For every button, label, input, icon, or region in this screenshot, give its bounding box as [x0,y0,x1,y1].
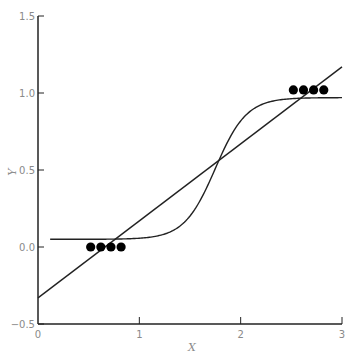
data-point [309,85,318,94]
y-tick-label: 1.5 [19,11,35,22]
x-tick-label: 0 [35,329,41,340]
data-point [116,242,125,251]
y-tick-label: 0.5 [19,165,35,176]
y-tick-label: −0.5 [11,319,35,330]
plot-area [38,67,342,298]
data-point [86,242,95,251]
x-tick-label: 1 [136,329,142,340]
data-point [106,242,115,251]
data-point [96,242,105,251]
data-point [319,85,328,94]
data-point [299,85,308,94]
x-tick-label: 3 [339,329,345,340]
linear-fit-line [38,67,342,298]
data-point [289,85,298,94]
logistic-fit-curve [50,98,342,240]
x-axis: 0123 [35,317,345,340]
y-tick-label: 1.0 [19,88,35,99]
y-axis-label: Y [6,167,19,176]
chart: −0.50.00.51.01.5 0123 X Y [0,0,356,362]
x-tick-label: 2 [237,329,243,340]
x-axis-label: X [187,341,197,354]
y-tick-label: 0.0 [19,242,35,253]
